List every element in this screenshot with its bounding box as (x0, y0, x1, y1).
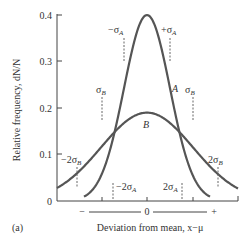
y-axis-title: Relative frequency, dN/N (11, 59, 22, 161)
x-tick-plus: + (211, 206, 217, 217)
x-tick-minus: − (79, 206, 85, 217)
label-curve-b: B (143, 119, 149, 130)
label-minus-sigma-a: −σA (108, 24, 124, 37)
label-curve-a: A (171, 83, 179, 94)
label-plus-sigma-a: +σA (161, 24, 177, 37)
label-minus-2sigma-b: −2σB (61, 154, 82, 167)
y-tick-0.1: 0.1 (40, 149, 53, 160)
panel-label: (a) (12, 222, 23, 234)
y-tick-0.4: 0.4 (40, 10, 53, 21)
y-tick-0.3: 0.3 (40, 56, 53, 67)
normal-distribution-chart: 0.4 0.3 0.2 0.1 0 Relative frequency, dN… (0, 0, 249, 247)
label-2sigma-b: 2σB (208, 154, 223, 167)
label-sigma-b-left: σB (96, 84, 106, 97)
label-2sigma-a: 2σA (163, 181, 178, 194)
y-axis: 0.4 0.3 0.2 0.1 0 Relative frequency, dN… (11, 10, 62, 207)
label-minus-2sigma-a: −2σA (116, 181, 137, 194)
x-axis-title: Deviation from mean, x−μ (97, 222, 204, 233)
curve-a (84, 15, 210, 197)
x-tick-zero: 0 (145, 206, 150, 217)
x-axis: − 0 + Deviation from mean, x−μ (a) (12, 196, 238, 234)
label-sigma-b-right: σB (185, 84, 195, 97)
y-tick-0: 0 (47, 196, 52, 207)
y-tick-0.2: 0.2 (40, 103, 53, 114)
